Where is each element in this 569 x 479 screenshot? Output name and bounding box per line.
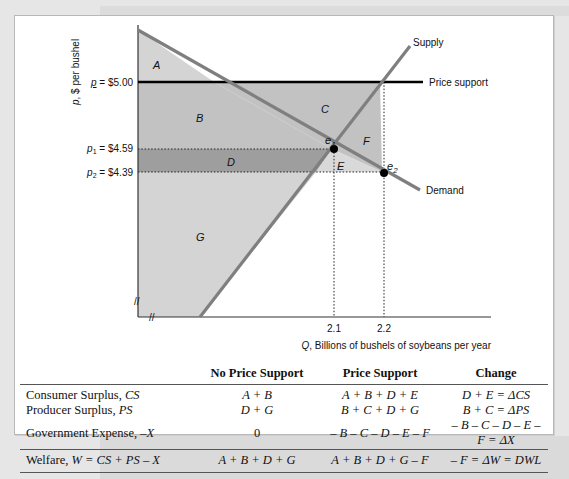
row-label: Welfare, W = CS + PS – X bbox=[20, 450, 198, 473]
x-axis-break-icon: // bbox=[149, 312, 155, 323]
y-tick-p1: p1 = $4.59 bbox=[86, 143, 133, 155]
table-row-government-expense: Government Expense, –X 0 – B – C – D – E… bbox=[20, 418, 548, 450]
supply-label: Supply bbox=[413, 37, 444, 48]
cell-change: B + C = ΔPS bbox=[444, 403, 548, 418]
price-support-label: Price support bbox=[429, 77, 488, 88]
y-tick-p2: p2 = $4.39 bbox=[86, 167, 133, 179]
table-row-welfare: Welfare, W = CS + PS – X A + B + D + G A… bbox=[20, 450, 548, 473]
cell-change: D + E = ΔCS bbox=[444, 385, 548, 404]
y-tick-pbar: p = $5.00 bbox=[90, 77, 133, 88]
region-d bbox=[138, 149, 332, 172]
cell-support: A + B + D + E bbox=[316, 385, 444, 404]
demand-label: Demand bbox=[426, 185, 464, 196]
table-header-support: Price Support bbox=[316, 365, 444, 385]
table-header-no-support: No Price Support bbox=[198, 365, 316, 385]
cell-no-support: 0 bbox=[198, 418, 316, 450]
cell-support: – B – C – D – E – F bbox=[316, 418, 444, 450]
region-a-label: A bbox=[152, 59, 160, 71]
region-g-label: G bbox=[196, 231, 205, 243]
table-header-blank bbox=[20, 365, 198, 385]
region-b-label: B bbox=[196, 112, 203, 124]
table-row-producer-surplus: Producer Surplus, PS D + G B + C + D + G… bbox=[20, 403, 548, 418]
row-label: Government Expense, –X bbox=[20, 418, 198, 450]
welfare-summary-table: No Price Support Price Support Change Co… bbox=[20, 365, 548, 473]
price-support-chart: // // A B C D E F G e1 e2 Supply Price s… bbox=[0, 0, 569, 360]
x-tick-2-2: 2.2 bbox=[377, 323, 391, 334]
region-e-label: E bbox=[337, 160, 345, 172]
y-axis-break-icon: // bbox=[134, 296, 140, 307]
row-label: Consumer Surplus, CS bbox=[20, 385, 198, 404]
cell-change: – B – C – D – E – F = ΔX bbox=[444, 418, 548, 450]
region-d-label: D bbox=[227, 156, 235, 168]
y-axis-title: p, $ per bushel bbox=[70, 39, 81, 106]
table-header-change: Change bbox=[444, 365, 548, 385]
cell-support: A + B + D + G – F bbox=[316, 450, 444, 473]
region-g bbox=[138, 172, 316, 317]
table-row-consumer-surplus: Consumer Surplus, CS A + B A + B + D + E… bbox=[20, 385, 548, 404]
cell-no-support: A + B bbox=[198, 385, 316, 404]
x-axis-title: Q, Billions of bushels of soybeans per y… bbox=[301, 340, 491, 351]
x-tick-2-1: 2.1 bbox=[327, 323, 341, 334]
row-label: Producer Surplus, PS bbox=[20, 403, 198, 418]
table-header-row: No Price Support Price Support Change bbox=[20, 365, 548, 385]
cell-support: B + C + D + G bbox=[316, 403, 444, 418]
cell-no-support: D + G bbox=[198, 403, 316, 418]
region-c-label: C bbox=[321, 103, 329, 115]
cell-change: – F = ΔW = DWL bbox=[444, 450, 548, 473]
cell-no-support: A + B + D + G bbox=[198, 450, 316, 473]
